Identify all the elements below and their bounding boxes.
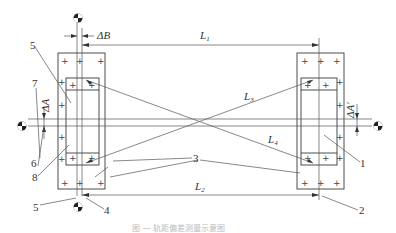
svg-text:+: + xyxy=(88,153,96,163)
svg-text:+: + xyxy=(336,153,344,163)
svg-text:+: + xyxy=(317,56,325,66)
svg-text:+: + xyxy=(97,178,105,188)
label-delta-a-prime: ΔA′ xyxy=(344,102,356,119)
svg-text:+: + xyxy=(58,154,66,164)
target-top-icon xyxy=(74,14,83,23)
svg-text:+: + xyxy=(336,132,344,142)
svg-text:+: + xyxy=(69,153,77,163)
svg-text:+: + xyxy=(58,132,66,142)
left-outer-frame xyxy=(58,53,105,189)
label-l3: L3 xyxy=(243,90,254,104)
svg-text:+: + xyxy=(88,80,96,90)
svg-text:+: + xyxy=(97,56,105,66)
target-right-icon xyxy=(374,122,383,131)
target-left-icon xyxy=(18,122,27,131)
label-6: 6 xyxy=(31,157,37,169)
svg-text:+: + xyxy=(76,56,84,66)
svg-text:+: + xyxy=(336,100,344,110)
svg-text:+: + xyxy=(336,77,344,87)
svg-text:+: + xyxy=(301,56,309,66)
label-5-bottom: 5 xyxy=(33,201,39,213)
svg-text:+: + xyxy=(333,178,341,188)
svg-text:+: + xyxy=(58,100,66,110)
svg-text:+: + xyxy=(61,56,69,66)
label-l1: L1 xyxy=(199,29,210,43)
svg-text:+: + xyxy=(58,77,66,87)
svg-text:+: + xyxy=(304,80,312,90)
left-inner-frame xyxy=(66,78,99,165)
label-3: 3 xyxy=(193,152,199,164)
label-l2: L2 xyxy=(194,180,205,194)
svg-text:+: + xyxy=(304,153,312,163)
svg-text:+: + xyxy=(76,178,84,188)
target-bottom-icon xyxy=(74,203,83,212)
figure-caption: 图 — 轨距偏差测量示意图 xyxy=(132,223,225,233)
label-4: 4 xyxy=(104,204,110,216)
svg-text:+: + xyxy=(333,56,341,66)
label-1: 1 xyxy=(360,157,366,169)
label-5-top: 5 xyxy=(30,39,36,51)
svg-text:+: + xyxy=(69,80,77,90)
svg-text:+: + xyxy=(301,178,309,188)
alignment-diagram: + + + + + + + + + + + + + + + + + + + + … xyxy=(0,0,396,233)
label-7: 7 xyxy=(32,77,38,89)
svg-text:+: + xyxy=(317,178,325,188)
label-delta-b: ΔB xyxy=(96,29,110,41)
label-8: 8 xyxy=(32,171,38,183)
svg-text:+: + xyxy=(322,80,330,90)
label-2: 2 xyxy=(359,204,365,216)
label-delta-a: ΔA xyxy=(39,99,51,113)
svg-text:+: + xyxy=(61,178,69,188)
svg-text:+: + xyxy=(322,153,330,163)
label-l4: L4 xyxy=(267,133,278,147)
